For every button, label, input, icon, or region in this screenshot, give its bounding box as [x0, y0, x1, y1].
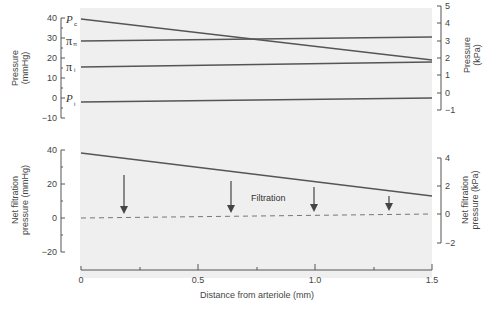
bottom-right-axis-title: Net filtration pressure (kPa)	[460, 170, 480, 229]
tick-label: 1	[445, 70, 450, 80]
svg-text:π: π	[66, 60, 72, 74]
tick-label: 4	[445, 153, 450, 163]
svg-text:P: P	[65, 92, 73, 104]
series-label-pi-plasma: π π	[66, 34, 77, 48]
chart-figure: 40 30 20 10 0 −10 Pressure (mmHg) 5 4 3 …	[0, 0, 489, 313]
tick-label: 20	[47, 179, 57, 189]
tick-label: −10	[42, 113, 57, 123]
tick-label: 1.0	[309, 275, 322, 285]
tick-label: −2	[445, 238, 455, 248]
axis-title-line1: Pressure	[462, 37, 472, 73]
svg-text:π: π	[73, 41, 77, 47]
top-right-tick-labels: 5 4 3 2 1 0 −1	[445, 1, 455, 115]
tick-label: 40	[47, 145, 57, 155]
tick-label: 0	[52, 93, 57, 103]
svg-text:i: i	[74, 101, 75, 107]
tick-label: 5	[445, 1, 450, 11]
svg-text:i: i	[74, 67, 75, 73]
filtration-label: Filtration	[251, 193, 286, 203]
series-label-pc: P c	[65, 13, 77, 27]
axis-title-line1: Pressure	[10, 50, 20, 86]
tick-label: 30	[47, 33, 57, 43]
tick-label: −20	[42, 247, 57, 257]
tick-label: −1	[445, 105, 455, 115]
series-label-p-interstitial: P i	[65, 92, 75, 107]
tick-label: 4	[445, 18, 450, 28]
axis-title-line2: pressure (kPa)	[470, 170, 480, 229]
tick-label: 0	[78, 275, 83, 285]
top-right-axis	[437, 6, 441, 110]
axis-title-line2: (mmHg)	[20, 52, 30, 85]
bottom-left-axis-title: Net filtration pressure (mmHg)	[10, 165, 30, 235]
tick-label: 0	[445, 209, 450, 219]
axis-title-line1: Net filtration	[460, 176, 470, 224]
tick-label: 0	[52, 213, 57, 223]
svg-text:π: π	[66, 34, 72, 48]
top-left-axis-title: Pressure (mmHg)	[10, 50, 30, 86]
tick-label: 2	[445, 53, 450, 63]
tick-label: 40	[47, 13, 57, 23]
tick-label: 3	[445, 36, 450, 46]
tick-label: 10	[47, 73, 57, 83]
series-label-pi-interstitial: π i	[66, 60, 75, 74]
bottom-left-tick-labels: 40 20 0 −20	[42, 145, 57, 257]
axis-title-line2: pressure (mmHg)	[20, 165, 30, 235]
svg-text:P: P	[65, 13, 73, 25]
bottom-right-tick-labels: 4 2 0 −2	[445, 153, 455, 248]
tick-label: 20	[47, 53, 57, 63]
top-left-axis	[61, 18, 65, 118]
axis-title-line1: Net filtration	[10, 176, 20, 224]
top-right-axis-title: Pressure (kPa)	[462, 37, 482, 73]
top-left-tick-labels: 40 30 20 10 0 −10	[42, 13, 57, 123]
tick-label: 0	[445, 88, 450, 98]
tick-label: 1.5	[426, 275, 439, 285]
bottom-left-axis	[61, 150, 65, 252]
bottom-right-axis	[437, 158, 441, 243]
tick-label: 2	[445, 181, 450, 191]
svg-text:c: c	[74, 21, 77, 27]
tick-label: 0.5	[192, 275, 205, 285]
x-axis-title: Distance from arteriole (mm)	[200, 290, 314, 300]
axis-title-line2: (kPa)	[472, 44, 482, 66]
plot-background	[80, 8, 432, 278]
